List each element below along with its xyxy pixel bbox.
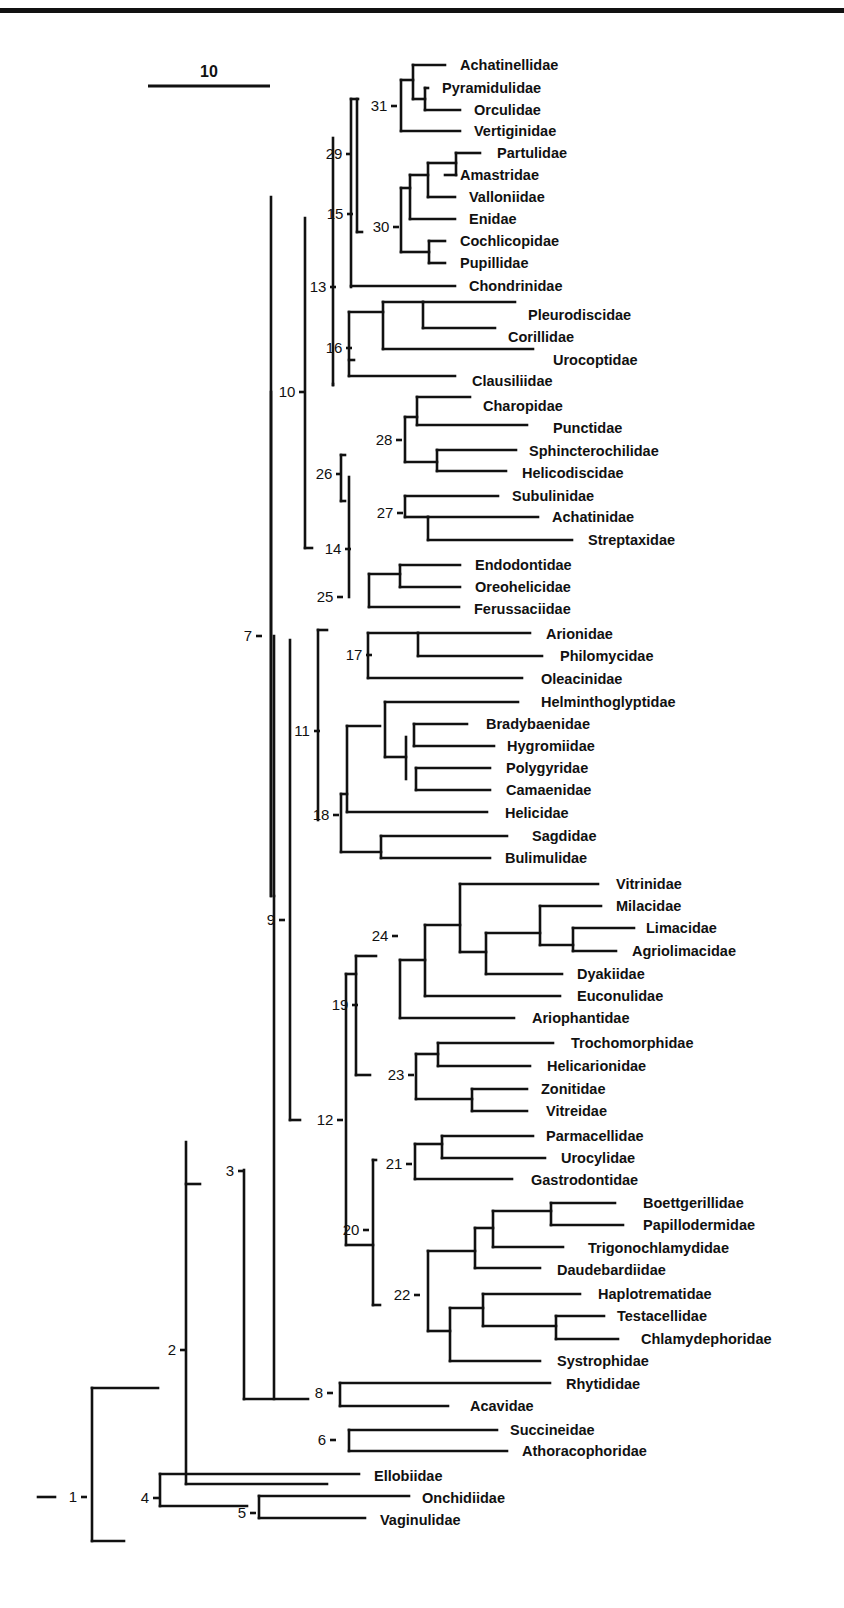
node-number-label: 9 [267, 911, 275, 928]
taxon-label: Pyramidulidae [442, 80, 541, 96]
taxon-label: Limacidae [646, 920, 717, 936]
taxon-label: Achatinidae [552, 509, 634, 525]
node-number-label: 17 [346, 646, 363, 663]
node-number-label: 8 [315, 1384, 323, 1401]
node-number-label: 26 [316, 465, 333, 482]
taxon-label: Charopidae [483, 398, 563, 414]
node-number-label: 12 [317, 1111, 334, 1128]
taxon-label: Pleurodiscidae [528, 307, 631, 323]
node-number-label: 10 [279, 383, 296, 400]
taxon-label: Urocoptidae [553, 352, 638, 368]
taxon-label: Valloniidae [469, 189, 545, 205]
taxon-label: Oreohelicidae [475, 579, 571, 595]
taxon-label: Clausiliidae [472, 373, 553, 389]
taxon-label: Agriolimacidae [632, 943, 736, 959]
taxon-label: Helminthoglyptidae [541, 694, 676, 710]
taxon-label: Helicodiscidae [522, 465, 624, 481]
taxon-label: Zonitidae [541, 1081, 605, 1097]
taxon-label: Testacellidae [617, 1308, 707, 1324]
scale-bar-label: 10 [200, 63, 218, 80]
node-number-label: 11 [294, 722, 310, 739]
taxon-label: Cochlicopidae [460, 233, 559, 249]
node-number-label: 20 [343, 1221, 360, 1238]
taxon-label: Boettgerillidae [643, 1195, 744, 1211]
node-number-label: 31 [371, 97, 388, 114]
taxon-label: Parmacellidae [546, 1128, 644, 1144]
taxon-label: Trochomorphidae [571, 1035, 693, 1051]
taxon-label: Succineidae [510, 1422, 595, 1438]
node-number-label: 14 [325, 540, 342, 557]
taxon-label: Camaenidae [506, 782, 591, 798]
taxon-labels: AchatinellidaePyramidulidaeOrculidaeVert… [374, 57, 772, 1528]
node-number-label: 4 [141, 1489, 149, 1506]
taxon-label: Achatinellidae [460, 57, 558, 73]
taxon-label: Gastrodontidae [531, 1172, 638, 1188]
taxon-label: Athoracophoridae [522, 1443, 647, 1459]
node-number-label: 16 [326, 339, 343, 356]
scale-bar: 10 [148, 63, 270, 86]
taxon-label: Daudebardiidae [557, 1262, 666, 1278]
taxon-label: Philomycidae [560, 648, 653, 664]
taxon-label: Polygyridae [506, 760, 588, 776]
taxon-label: Amastridae [460, 167, 539, 183]
node-number-label: 29 [326, 145, 343, 162]
taxon-label: Punctidae [553, 420, 622, 436]
taxon-label: Oleacinidae [541, 671, 622, 687]
taxon-label: Enidae [469, 211, 517, 227]
node-number-label: 2 [168, 1341, 176, 1358]
taxon-label: Sagdidae [532, 828, 596, 844]
taxon-label: Helicidae [505, 805, 569, 821]
taxon-label: Corillidae [508, 329, 574, 345]
node-number-label: 24 [372, 927, 389, 944]
node-number-label: 23 [388, 1066, 405, 1083]
node-number-label: 22 [394, 1286, 411, 1303]
node-number-label: 7 [244, 627, 252, 644]
taxon-label: Ariophantidae [532, 1010, 629, 1026]
node-number-label: 1 [69, 1488, 77, 1505]
node-number-label: 6 [318, 1431, 326, 1448]
node-number-label: 25 [317, 588, 334, 605]
taxon-label: Rhytididae [566, 1376, 640, 1392]
taxon-label: Vaginulidae [380, 1512, 461, 1528]
taxon-label: Bulimulidae [505, 850, 587, 866]
node-number-label: 27 [377, 504, 394, 521]
taxon-label: Trigonochlamydidae [588, 1240, 729, 1256]
taxon-label: Subulinidae [512, 488, 594, 504]
node-number-label: 13 [310, 278, 327, 295]
taxon-label: Euconulidae [577, 988, 663, 1004]
node-number-label: 3 [226, 1162, 234, 1179]
taxon-label: Haplotrematidae [598, 1286, 712, 1302]
taxon-label: Sphincterochilidae [529, 443, 659, 459]
node-number-label: 28 [376, 431, 393, 448]
taxon-label: Bradybaenidae [486, 716, 590, 732]
cladogram: 10 1234567891011121314151617181920212223… [0, 0, 844, 1608]
taxon-label: Milacidae [616, 898, 681, 914]
taxon-label: Systrophidae [557, 1353, 649, 1369]
taxon-label: Ferussaciidae [474, 601, 571, 617]
taxon-label: Acavidae [470, 1398, 534, 1414]
taxon-label: Vertiginidae [474, 123, 556, 139]
node-number-label: 19 [332, 996, 349, 1013]
taxon-label: Chondrinidae [469, 278, 562, 294]
node-number-label: 18 [313, 806, 330, 823]
taxon-label: Dyakiidae [577, 966, 645, 982]
taxon-label: Pupillidae [460, 255, 529, 271]
taxon-label: Endodontidae [475, 557, 572, 573]
taxon-label: Hygromiidae [507, 738, 595, 754]
taxon-label: Orculidae [474, 102, 541, 118]
taxon-label: Ellobiidae [374, 1468, 443, 1484]
taxon-label: Papillodermidae [643, 1217, 755, 1233]
taxon-label: Vitrinidae [616, 876, 682, 892]
taxon-label: Helicarionidae [547, 1058, 646, 1074]
taxon-label: Streptaxidae [588, 532, 675, 548]
taxon-label: Vitreidae [546, 1103, 607, 1119]
node-number-label: 15 [327, 205, 344, 222]
taxon-label: Arionidae [546, 626, 613, 642]
node-number-label: 30 [373, 218, 390, 235]
node-number-label: 5 [238, 1504, 246, 1521]
taxon-label: Partulidae [497, 145, 567, 161]
node-number-label: 21 [386, 1155, 403, 1172]
taxon-label: Chlamydephoridae [641, 1331, 772, 1347]
taxon-label: Urocylidae [561, 1150, 635, 1166]
taxon-label: Onchidiidae [422, 1490, 505, 1506]
